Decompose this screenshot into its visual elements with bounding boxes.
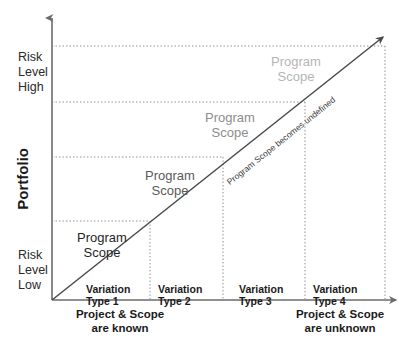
x-right-caption-line-1: Project & Scope (278, 308, 402, 322)
program-scope-label-1: Program Scope (56, 230, 148, 261)
risk-low-line-1: Risk (18, 248, 48, 263)
scope-3-line-2: Scope (182, 125, 278, 140)
scope-4-line-1: Program (248, 54, 344, 69)
scope-1-line-1: Program (56, 230, 148, 245)
x-left-caption-line-1: Project & Scope (58, 308, 182, 322)
risk-level-low-label: Risk Level Low (18, 248, 48, 292)
variation-1-line-1: Variation (86, 283, 130, 295)
x-right-caption-line-2: are unknown (278, 322, 402, 336)
variation-2-line-1: Variation (158, 283, 202, 295)
risk-high-line-2: Level (18, 65, 48, 80)
program-scope-label-4: Program Scope (248, 54, 344, 85)
diagram-canvas: Portfolio Risk Level High Risk Level Low… (0, 0, 404, 349)
risk-high-line-1: Risk (18, 50, 48, 65)
scope-2-line-2: Scope (122, 183, 218, 198)
scope-2-line-1: Program (122, 168, 218, 183)
variation-4-line-1: Variation (313, 283, 357, 295)
risk-low-line-3: Low (18, 278, 48, 293)
variation-3-line-1: Variation (239, 283, 283, 295)
program-scope-label-3: Program Scope (182, 110, 278, 141)
y-axis-title: Portfolio (14, 144, 32, 214)
risk-level-high-label: Risk Level High (18, 50, 48, 94)
variation-3-line-2: Type 3 (239, 295, 283, 307)
scope-4-line-2: Scope (248, 69, 344, 84)
risk-low-line-2: Level (18, 263, 48, 278)
risk-high-line-3: High (18, 80, 48, 95)
scope-1-line-2: Scope (56, 245, 148, 260)
variation-type-2-label: Variation Type 2 (158, 283, 202, 308)
variation-1-line-2: Type 1 (86, 295, 130, 307)
x-left-caption-line-2: are known (58, 322, 182, 336)
x-axis-right-caption: Project & Scope are unknown (278, 308, 402, 335)
program-scope-label-2: Program Scope (122, 168, 218, 199)
variation-2-line-2: Type 2 (158, 295, 202, 307)
variation-type-1-label: Variation Type 1 (86, 283, 130, 308)
variation-type-3-label: Variation Type 3 (239, 283, 283, 308)
variation-type-4-label: Variation Type 4 (313, 283, 357, 308)
scope-3-line-1: Program (182, 110, 278, 125)
variation-4-line-2: Type 4 (313, 295, 357, 307)
x-axis-left-caption: Project & Scope are known (58, 308, 182, 335)
